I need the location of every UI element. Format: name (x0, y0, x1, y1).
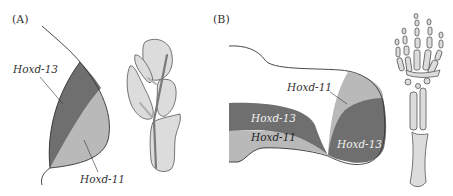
fin-bud (41, 26, 109, 185)
fin-hoxd11-label: Hoxd-11 (79, 173, 125, 185)
panel-a-label: (A) (12, 13, 29, 26)
panel-b: (B) Hoxd-11 Hoxd-13 Hoxd-11 Hoxd-13 (213, 13, 443, 187)
fin-hoxd13-label: Hoxd-13 (12, 63, 58, 75)
limb-hoxd11-upper-label: Hoxd-11 (286, 81, 332, 93)
fin-skeleton-icon (127, 39, 180, 171)
panel-a: (A) Hoxd-13 Hoxd-11 (12, 13, 180, 185)
panel-b-label: (B) (213, 13, 230, 26)
limb-hoxd13-left-label: Hoxd-13 (250, 112, 296, 124)
limb-hoxd11-left-label: Hoxd-11 (250, 131, 296, 143)
limb-skeleton-icon (395, 14, 443, 187)
hox-expression-diagram: (A) Hoxd-13 Hoxd-11 (B) (0, 0, 453, 196)
limb-hoxd13-right-label: Hoxd-13 (336, 138, 382, 150)
